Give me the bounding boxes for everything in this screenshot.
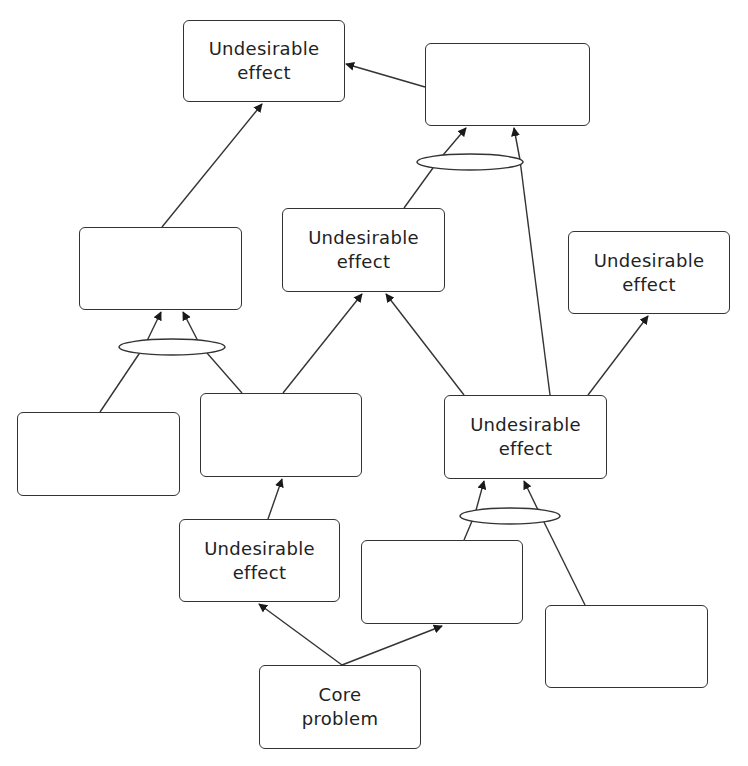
node-blank-center — [200, 393, 362, 477]
node-label-line2: effect — [308, 250, 419, 274]
node-undesirable-effect-top: Undesirableeffect — [183, 20, 345, 102]
node-undesirable-effect-center: Undesirableeffect — [282, 208, 445, 292]
node-label-line1: Undesirable — [209, 37, 320, 61]
edge-n12-n10 — [342, 626, 442, 665]
edge-n2-n1 — [346, 64, 425, 87]
and-connector-1 — [417, 154, 523, 170]
edge-n9-n7 — [268, 479, 282, 519]
and-connector-3 — [460, 508, 560, 524]
node-label-line1: Core — [302, 683, 379, 707]
node-blank-left-middle — [79, 227, 242, 310]
node-blank-far-left — [17, 412, 180, 496]
node-undesirable-effect-right-center: Undesirableeffect — [444, 395, 607, 479]
node-label-line2: effect — [594, 273, 705, 297]
edge-n8-and1 — [520, 160, 550, 395]
edge-n7-n4 — [283, 294, 362, 393]
node-label-line2: effect — [209, 61, 320, 85]
node-label-line1: Undesirable — [470, 413, 581, 437]
node-core-problem: Coreproblem — [259, 665, 421, 749]
edge-n11-and3 — [540, 514, 585, 605]
edge-n8-n4 — [386, 294, 464, 395]
edge-n6-and2 — [100, 345, 145, 412]
edge-n8-n5 — [588, 316, 648, 395]
node-label-line2: problem — [302, 707, 379, 731]
node-undesirable-effect-lower: Undesirableeffect — [179, 519, 340, 602]
node-label-line1: Undesirable — [204, 537, 315, 561]
node-undesirable-effect-right: Undesirableeffect — [568, 231, 730, 314]
edge-n12-n9 — [259, 604, 342, 665]
node-blank-lower-center — [361, 540, 523, 624]
edge-n3-n1 — [162, 104, 262, 227]
node-label-line2: effect — [204, 561, 315, 585]
node-label-line1: Undesirable — [594, 249, 705, 273]
node-blank-lower-right — [545, 605, 708, 688]
node-label-line2: effect — [470, 437, 581, 461]
edge-and1-n2-right — [514, 128, 520, 160]
node-label-line1: Undesirable — [308, 226, 419, 250]
and-connector-2 — [119, 339, 225, 355]
node-blank-top-right — [425, 43, 590, 126]
